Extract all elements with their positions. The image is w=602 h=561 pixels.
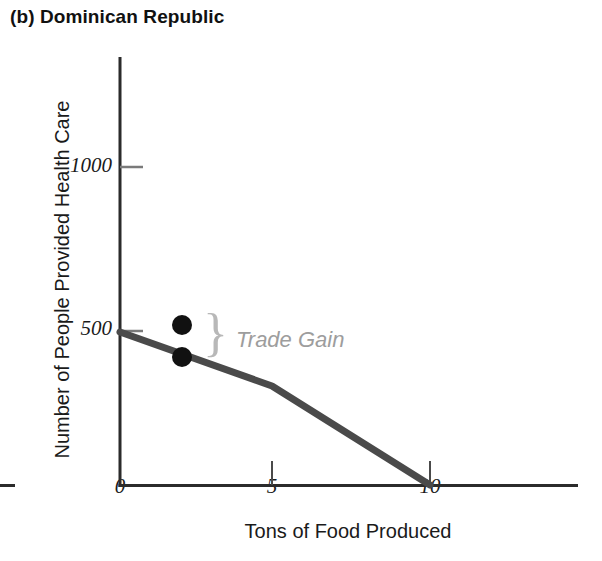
figure-dominican-republic-ppf: (b) Dominican Republic Number of People … bbox=[0, 0, 602, 561]
trade-gain-annotation: Trade Gain bbox=[236, 327, 344, 353]
plot-area bbox=[0, 0, 602, 561]
data-point-consumption bbox=[172, 315, 192, 335]
ppf-curve bbox=[120, 332, 430, 485]
data-point-production bbox=[172, 347, 192, 367]
curly-brace-icon: } bbox=[203, 307, 228, 359]
